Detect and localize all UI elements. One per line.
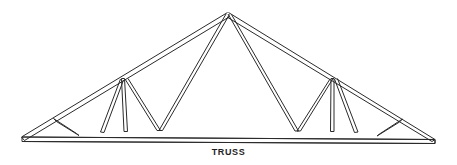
figure-caption: TRUSS — [0, 147, 457, 158]
web-right-vertical-edge-a — [331, 79, 332, 132]
web-left-diagonal-1-cap — [101, 132, 105, 133]
truss-drawing — [0, 0, 457, 165]
truss-diagram: TRUSS — [0, 0, 457, 165]
web-right-diagonal-1-cap — [355, 132, 359, 133]
